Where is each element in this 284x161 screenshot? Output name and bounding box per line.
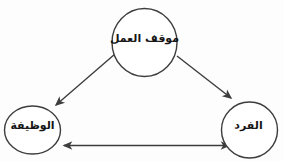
edge-work-attitude-to-job-arrow bbox=[56, 54, 115, 105]
work-attitude-diagram: موقف العمل الوظيفة الفرد bbox=[0, 0, 284, 161]
diagram-canvas: موقف العمل الوظيفة الفرد bbox=[0, 0, 284, 161]
edge-work-attitude-to-individual-arrow bbox=[177, 56, 231, 98]
node-job-label: الوظيفة bbox=[10, 119, 54, 132]
node-work-attitude: موقف العمل bbox=[110, 9, 179, 77]
node-individual-label: الفرد bbox=[234, 119, 262, 132]
node-work-attitude-label: موقف العمل bbox=[110, 32, 179, 45]
node-individual: الفرد bbox=[222, 102, 278, 158]
node-job: الوظيفة bbox=[5, 106, 61, 154]
